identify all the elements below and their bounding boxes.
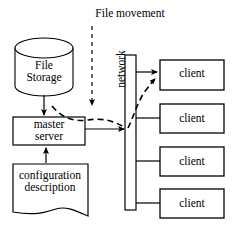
master-server-label: master server: [14, 119, 84, 143]
configuration-description-label: configuration description: [11, 170, 89, 194]
file-movement-label: File movement: [84, 8, 176, 20]
client-label-0: client: [161, 68, 223, 80]
network-label: network: [115, 41, 127, 97]
cylinder-top: [15, 38, 73, 58]
file-storage-label: File Storage: [18, 60, 70, 84]
diagram-canvas: File movement File Storage master server…: [0, 0, 234, 230]
client-label-3: client: [161, 198, 223, 210]
client-label-2: client: [161, 156, 223, 168]
client-label-1: client: [161, 113, 223, 125]
